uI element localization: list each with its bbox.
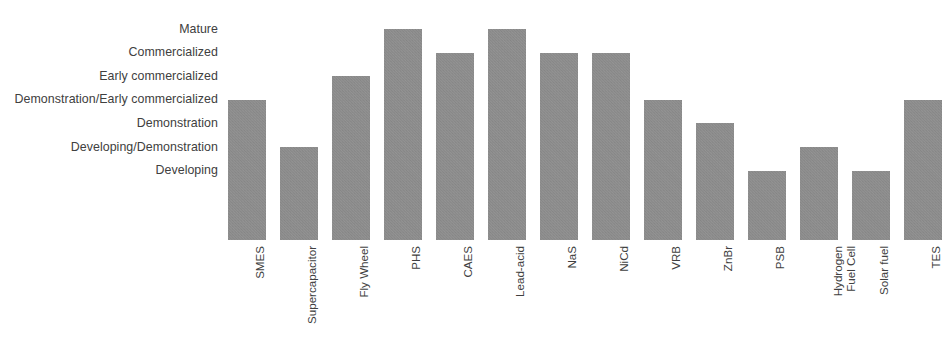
bar xyxy=(644,100,682,240)
bar xyxy=(852,171,890,240)
x-axis-tick-label-line1: Fly Wheel xyxy=(357,246,370,298)
x-axis-tick-label-line1: NaS xyxy=(565,246,578,269)
x-axis-tick-label: PSB xyxy=(774,246,787,269)
bar xyxy=(228,100,266,240)
bar xyxy=(540,53,578,240)
bar xyxy=(280,147,318,240)
bar xyxy=(436,53,474,240)
x-axis-tick-label: NaS xyxy=(566,246,579,269)
x-axis-tick-label-line1: Hydrogen xyxy=(831,246,844,296)
bar xyxy=(384,29,422,240)
x-axis-tick-label: Supercapacitor xyxy=(306,246,319,324)
bar xyxy=(332,76,370,240)
x-axis-tick-label-line1: Solar fuel xyxy=(877,246,890,295)
x-axis-tick-label: VRB xyxy=(670,246,683,270)
bar xyxy=(800,147,838,240)
x-axis-tick-label: Lead-acid xyxy=(514,246,527,297)
x-axis-tick-label-line1: PHS xyxy=(409,246,422,270)
x-axis-tick-labels: SMESSupercapacitorFly WheelPHSCAESLead-a… xyxy=(0,240,890,357)
x-axis-tick-label-line2: Fuel Cell xyxy=(845,246,858,296)
bar xyxy=(592,53,630,240)
x-axis-tick-label-line1: Supercapacitor xyxy=(305,246,318,324)
x-axis-tick-label: HydrogenFuel Cell xyxy=(832,246,857,296)
x-axis-tick-label: Fly Wheel xyxy=(358,246,371,298)
bar xyxy=(488,29,526,240)
x-axis-tick-label: ZnBr xyxy=(722,246,735,271)
x-axis-tick-label-line1: PSB xyxy=(773,246,786,269)
x-axis-tick-label: Solar fuel xyxy=(878,246,891,295)
x-axis-tick-label: PHS xyxy=(410,246,423,270)
x-axis-tick-label-line1: ZnBr xyxy=(721,246,734,271)
x-axis-tick-label-line1: NiCd xyxy=(617,246,630,272)
bar xyxy=(748,171,786,240)
x-axis-tick-label: SMES xyxy=(254,246,267,279)
x-axis-tick-label-line1: TES xyxy=(929,246,942,269)
x-axis-tick-label-line1: Lead-acid xyxy=(513,246,526,297)
x-axis-tick-label: TES xyxy=(930,246,942,269)
bar xyxy=(904,100,942,240)
bar xyxy=(696,123,734,240)
x-axis-tick-label: CAES xyxy=(462,246,475,278)
x-axis-tick-label-line1: VRB xyxy=(669,246,682,270)
x-axis-tick-label-line1: CAES xyxy=(461,246,474,278)
plot-area xyxy=(0,0,890,240)
x-axis-tick-label: NiCd xyxy=(618,246,631,272)
x-axis-tick-label-line1: SMES xyxy=(253,246,266,279)
